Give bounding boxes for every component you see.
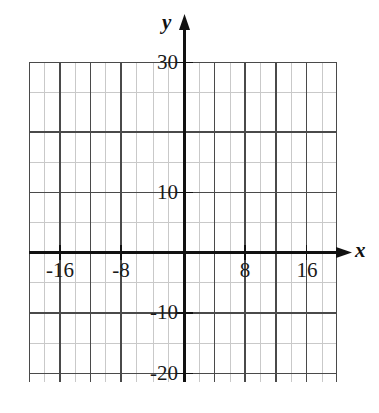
x-axis-name: x xyxy=(355,240,366,261)
x-axis-arrow-icon xyxy=(336,247,352,258)
y-label-leader-lines xyxy=(121,63,141,374)
y-tick-label-minus-20: -20 xyxy=(110,363,178,384)
x-axis-line xyxy=(29,247,352,258)
x-tick-label-minus-8: -8 xyxy=(93,260,149,281)
coordinate-grid-figure: 30 10 -10 -20 -16 -8 8 16 y x xyxy=(0,0,379,413)
y-axis-line xyxy=(179,14,190,382)
y-tick-label-minus-10: -10 xyxy=(110,302,178,323)
y-axis-name: y xyxy=(162,12,171,33)
coordinate-grid-canvas xyxy=(0,0,379,413)
y-axis-arrow-icon xyxy=(179,14,190,30)
y-tick-label-10: 10 xyxy=(118,182,178,203)
x-tick-label-8: 8 xyxy=(224,260,266,281)
x-tick-label-16: 16 xyxy=(283,260,331,281)
x-tick-label-minus-16: -16 xyxy=(30,260,90,281)
y-tick-label-30: 30 xyxy=(118,52,178,73)
